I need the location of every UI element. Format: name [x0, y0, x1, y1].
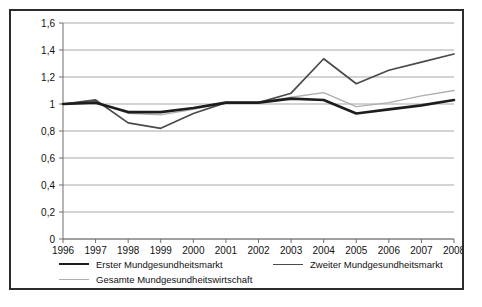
y-tick-label: 1: [49, 99, 55, 110]
chart-legend: Erster Mundgesundheitsmarkt Zweiter Mund…: [11, 254, 462, 288]
legend-swatch-zweiter-icon: [273, 264, 303, 265]
x-tick-label: 1998: [117, 245, 140, 254]
x-tick-label: 2007: [410, 245, 433, 254]
y-tick-label: 0,6: [41, 153, 55, 164]
x-tick-label: 2008: [443, 245, 462, 254]
legend-item-gesamte: Gesamte Mundgesundheitswirtschaft: [59, 273, 252, 287]
legend-item-erster: Erster Mundgesundheitsmarkt: [59, 258, 223, 272]
x-axis: [63, 239, 454, 243]
chart-figure: 00,20,40,60,811,21,41,6 1996199719981999…: [9, 9, 464, 290]
x-tick-label: 2003: [280, 245, 303, 254]
y-tick-label: 1,4: [41, 45, 55, 56]
y-tick-labels: 00,20,40,60,811,21,41,6: [41, 18, 55, 245]
x-tick-label: 1999: [150, 245, 173, 254]
y-tick-label: 0,4: [41, 180, 55, 191]
x-tick-label: 2000: [182, 245, 205, 254]
y-tick-label: 0,8: [41, 126, 55, 137]
y-tick-label: 0,2: [41, 207, 55, 218]
x-tick-label: 1996: [52, 245, 75, 254]
y-tick-label: 0: [49, 234, 55, 245]
plot-area: 00,20,40,60,811,21,41,6 1996199719981999…: [11, 11, 462, 254]
legend-item-zweiter: Zweiter Mundgesundheitsmarkt: [273, 258, 443, 272]
x-tick-label: 1997: [84, 245, 107, 254]
x-tick-label: 2006: [378, 245, 401, 254]
y-tick-label: 1,2: [41, 72, 55, 83]
y-axis: [59, 23, 63, 239]
y-tick-label: 1,6: [41, 18, 55, 29]
legend-label-erster: Erster Mundgesundheitsmarkt: [96, 259, 223, 270]
x-tick-label: 2005: [345, 245, 368, 254]
x-tick-labels: 1996199719981999200020012002200320042005…: [52, 245, 462, 254]
x-tick-label: 2004: [313, 245, 336, 254]
legend-label-gesamte: Gesamte Mundgesundheitswirtschaft: [96, 274, 252, 285]
legend-swatch-erster-icon: [59, 263, 89, 265]
data-series: [63, 54, 454, 128]
legend-label-zweiter: Zweiter Mundgesundheitsmarkt: [310, 259, 443, 270]
x-tick-label: 2001: [215, 245, 238, 254]
series-line-zweiter: [63, 54, 454, 128]
grid-lines: [63, 23, 454, 239]
line-chart: 00,20,40,60,811,21,41,6 1996199719981999…: [11, 11, 462, 254]
x-tick-label: 2002: [247, 245, 270, 254]
legend-swatch-gesamte-icon: [59, 279, 89, 280]
